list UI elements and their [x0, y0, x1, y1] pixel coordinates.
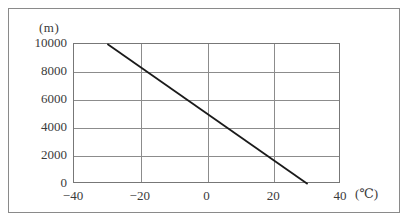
x-tick-label: 0: [177, 189, 237, 203]
y-tick-label: 10000: [5, 36, 67, 50]
x-axis-tick-labels: −40−2002040: [0, 189, 410, 209]
x-tick-label: −40: [43, 189, 103, 203]
plot-area: [73, 43, 340, 183]
y-tick-label: 2000: [5, 148, 67, 162]
x-tick-label: 20: [243, 189, 303, 203]
chart-figure: (m) (℃) 0200040006000800010000 −40−20020…: [0, 0, 410, 222]
y-tick-label: 6000: [5, 92, 67, 106]
x-tick-label: 40: [310, 189, 370, 203]
y-tick-label: 4000: [5, 120, 67, 134]
data-series-line: [74, 44, 341, 184]
y-tick-label: 0: [5, 176, 67, 190]
y-tick-label: 8000: [5, 64, 67, 78]
x-tick-label: −20: [110, 189, 170, 203]
